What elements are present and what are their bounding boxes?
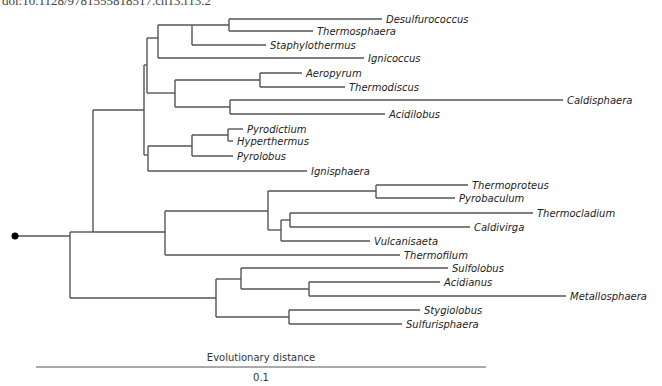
leaf-label: Vulcanisaeta (374, 236, 438, 247)
leaf-label: Metallosphaera (570, 291, 647, 302)
leaf-label: Acidilobus (388, 109, 440, 120)
leaf-label: Caldisphaera (567, 95, 632, 106)
root-dot-icon (12, 233, 19, 240)
leaf-label: Thermocladium (537, 208, 615, 219)
scale-bar: Evolutionary distance 0.1 (36, 352, 486, 383)
leaf-label: Staphylothermus (270, 40, 356, 51)
leaf-label: Ignicoccus (368, 53, 421, 64)
leaf-label: Pyrolobus (237, 151, 286, 162)
leaf-label: Thermodiscus (349, 82, 419, 93)
phylogenetic-tree: DesulfurococcusThermosphaeraStaphylother… (0, 0, 662, 386)
leaf-label: Aeropyrum (305, 68, 362, 79)
leaf-label: Hyperthermus (237, 136, 309, 147)
leaf-label: Pyrodictium (247, 124, 307, 135)
scale-bar-title: Evolutionary distance (207, 352, 315, 363)
leaf-label: Thermosphaera (317, 26, 396, 37)
leaf-label: Sulfolobus (452, 263, 504, 274)
leaf-label: Desulfurococcus (386, 14, 468, 25)
scale-bar-value: 0.1 (253, 372, 269, 383)
leaf-label: Sulfurisphaera (406, 319, 479, 330)
leaf-label: Caldivirga (474, 222, 524, 233)
leaf-label: Thermofilum (404, 250, 468, 261)
leaf-label: Pyrobaculum (459, 193, 525, 204)
leaf-label: Acidianus (443, 277, 492, 288)
leaf-label: Ignisphaera (311, 166, 370, 177)
leaf-label: Stygiolobus (424, 305, 482, 316)
leaf-label: Thermoproteus (472, 180, 549, 191)
